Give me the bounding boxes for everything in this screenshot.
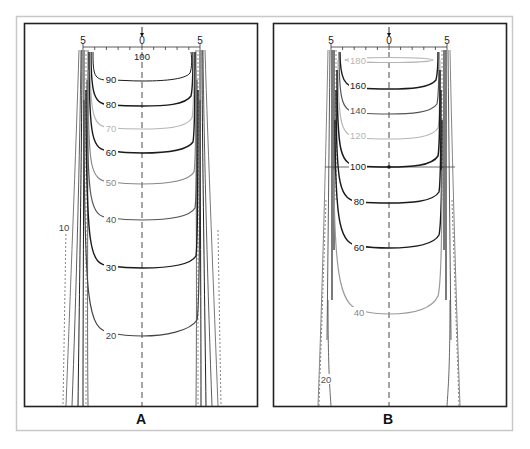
contour-b-100-label: 100 [350,161,366,172]
contour-a-10-label: 10 [59,222,70,233]
contour-a-100-label: 100 [134,51,150,62]
contour-b-80-label: 80 [354,196,365,207]
contour-a-80-label: 80 [106,99,117,110]
contour-a-30-label: 30 [106,262,117,273]
ruler-b-left-label: 5 [328,35,334,46]
contour-a-20-label: 20 [106,330,117,341]
contour-b-160-label: 160 [350,80,366,91]
ruler-a-center-label: 0 [139,35,145,46]
contour-a-70-label: 70 [106,123,117,134]
contour-a-50-label: 50 [106,177,117,188]
contour-b-140-label: 140 [350,105,366,116]
panel-b: 5 0 5 [274,24,507,407]
isodose-figure: 5 0 5 100 [0,0,530,449]
panel-a-label: A [136,411,146,427]
contour-a-90-label: 90 [106,74,117,85]
contour-b-120-label: 120 [350,130,366,141]
panel-b-label: B [383,411,393,427]
contour-b-60-label: 60 [354,242,365,253]
panel-a: 5 0 5 100 [25,24,258,407]
panel-b-box [274,24,507,407]
ruler-b-right-label: 5 [444,35,450,46]
ruler-a-right-label: 5 [197,35,203,46]
ruler-a-left-label: 5 [80,35,86,46]
contour-a-60-label: 60 [106,147,117,158]
contour-b-40-label: 40 [354,307,365,318]
contour-a-40-label: 40 [106,214,117,225]
ruler-b-center-label: 0 [386,35,392,46]
contour-b-20-label: 20 [321,374,332,385]
contour-b-180-label: 180 [350,55,366,66]
